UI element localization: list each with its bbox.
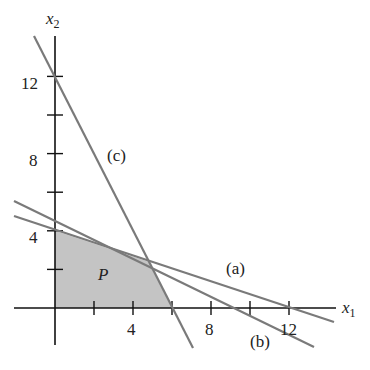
x1-axis-label: x1: [341, 298, 356, 320]
x1-tick-label-12: 12: [280, 320, 297, 339]
line-label-b: (b): [250, 332, 270, 351]
x2-tick-label-8: 8: [29, 151, 38, 170]
line-label-a: (a): [226, 259, 245, 278]
x2-tick-label-4: 4: [29, 228, 38, 247]
region-label-p: P: [97, 265, 108, 284]
line-label-c: (c): [107, 146, 126, 165]
x1-tick-label-4: 4: [127, 320, 136, 339]
x1-tick-label-8: 8: [205, 320, 214, 339]
feasible-region-diagram: 4 8 12 4 8 12 x2 x1 (a) (b) (c) P: [0, 0, 370, 370]
x2-tick-label-12: 12: [21, 74, 38, 93]
x2-axis-label: x2: [45, 9, 60, 31]
